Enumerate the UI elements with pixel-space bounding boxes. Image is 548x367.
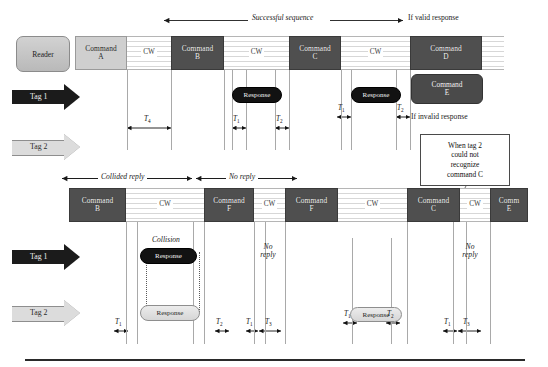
top-timing-t2a: T2 bbox=[276, 115, 283, 124]
bottom-timing-t3b-sub: 3 bbox=[467, 321, 470, 327]
guide-line bbox=[127, 70, 128, 150]
bottom-timing-t2a-sub: 2 bbox=[220, 321, 223, 327]
top-command-a: Command A bbox=[75, 36, 127, 70]
collision-dotted-right bbox=[199, 252, 200, 312]
tag1-arrow-bottom: Tag 1 bbox=[12, 244, 80, 270]
guide-line bbox=[352, 238, 353, 344]
top-timing-t1b: T1 bbox=[338, 104, 345, 113]
bottom-command-f1-line2: F bbox=[213, 205, 245, 213]
bottom-command-c-line2: C bbox=[418, 205, 450, 213]
top-command-a-line2: A bbox=[85, 53, 117, 61]
bottom-timing-t2b: T2 bbox=[387, 310, 394, 319]
bottom-response-tag2-commandf: Response bbox=[350, 307, 402, 322]
top-response-1: Response bbox=[232, 87, 282, 103]
top-command-c: Command C bbox=[289, 36, 341, 70]
bottom-cw-3: CW bbox=[338, 188, 407, 222]
top-timing-t2b: T2 bbox=[397, 104, 404, 113]
bottom-cw-2-label: CW bbox=[262, 201, 278, 208]
bottom-command-b-line2: B bbox=[82, 205, 114, 213]
bottom-cw-2: CW bbox=[254, 188, 285, 222]
top-timing-t2b-sub: 2 bbox=[401, 107, 404, 113]
bottom-command-f-1: Command F bbox=[204, 188, 254, 222]
callout-line3: recognize bbox=[447, 160, 483, 170]
label-successful-sequence: Successful sequence bbox=[252, 14, 313, 22]
callout-tag2-recognition: When tag 2 could not recognize command C bbox=[420, 134, 510, 186]
bottom-command-f-2: Command F bbox=[285, 188, 338, 222]
label-if-invalid-response: If invalid response bbox=[411, 113, 468, 121]
label-no-reply-2: No reply bbox=[458, 243, 482, 260]
top-command-e-line2: E bbox=[445, 89, 450, 97]
bottom-cw-1-label: CW bbox=[157, 201, 173, 208]
top-command-d: Command D bbox=[410, 36, 482, 70]
label-if-valid-response: If valid response bbox=[408, 14, 459, 22]
bottom-command-b: Command B bbox=[69, 188, 126, 222]
tag1-arrow-head bbox=[64, 244, 80, 270]
guide-line bbox=[171, 70, 172, 150]
bottom-timing-t3b: T3 bbox=[463, 318, 470, 327]
bottom-response-tag1-collision: Response bbox=[140, 248, 197, 264]
guide-line bbox=[126, 222, 127, 344]
top-command-e: Command E bbox=[411, 74, 483, 104]
label-no-reply-middle: No reply bbox=[226, 173, 258, 181]
callout-line1: When tag 2 bbox=[447, 141, 483, 151]
top-cw-4 bbox=[482, 36, 504, 70]
bottom-response-1-label: Response bbox=[155, 252, 182, 260]
tag2-arrow-top: Tag 2 bbox=[12, 134, 80, 160]
bottom-command-e: Comm E bbox=[490, 188, 528, 222]
guide-line bbox=[351, 70, 352, 150]
top-command-c-line2: C bbox=[299, 53, 331, 61]
bottom-timing-t1c: T1 bbox=[344, 310, 351, 319]
top-timing-t4: T4 bbox=[144, 115, 151, 124]
top-response-2: Response bbox=[351, 87, 401, 103]
tag2-arrow-bottom: Tag 2 bbox=[12, 300, 80, 326]
guide-line bbox=[254, 222, 255, 344]
label-collision: Collision bbox=[152, 236, 180, 244]
guide-line bbox=[137, 222, 138, 344]
guide-line bbox=[224, 70, 225, 150]
top-cw-1: CW bbox=[127, 36, 171, 70]
tag1-arrow-top: Tag 1 bbox=[12, 84, 80, 110]
bottom-timing-t1b: T1 bbox=[246, 318, 253, 327]
top-command-b: Command B bbox=[171, 36, 224, 70]
guide-line bbox=[490, 222, 491, 344]
guide-line bbox=[193, 222, 194, 344]
bottom-command-e-line2: E bbox=[499, 205, 520, 213]
top-timing-t1b-sub: 1 bbox=[342, 107, 345, 113]
bottom-timing-t1d: T1 bbox=[444, 318, 451, 327]
bottom-timing-t1a: T1 bbox=[115, 318, 122, 327]
bottom-timing-t2a: T2 bbox=[216, 318, 223, 327]
top-timing-t4-sub: 4 bbox=[148, 118, 151, 124]
top-cw-3: CW bbox=[341, 36, 410, 70]
top-cw-3-label: CW bbox=[368, 49, 384, 56]
bottom-command-f2-line2: F bbox=[296, 205, 328, 213]
guide-line bbox=[453, 222, 454, 344]
bottom-timing-t1c-sub: 1 bbox=[348, 313, 351, 319]
guide-line bbox=[391, 238, 392, 344]
top-cw-2: CW bbox=[224, 36, 289, 70]
label-no-reply-1-line2: reply bbox=[256, 251, 280, 259]
bottom-cw-4: CW bbox=[460, 188, 490, 222]
tag1-label-top: Tag 1 bbox=[30, 84, 47, 110]
guide-line bbox=[407, 222, 408, 344]
callout-line4: command C bbox=[447, 170, 483, 180]
callout-line2: could not bbox=[447, 150, 483, 160]
guide-line bbox=[246, 70, 247, 150]
bottom-cw-1: CW bbox=[126, 188, 204, 222]
bottom-response-3-label: Response bbox=[363, 311, 390, 319]
label-no-reply-2-line2: reply bbox=[458, 251, 482, 259]
guide-line bbox=[232, 70, 233, 150]
reader-label: Reader bbox=[32, 50, 54, 59]
top-timing-t1a-sub: 1 bbox=[237, 118, 240, 124]
bottom-timing-t3a: T3 bbox=[265, 318, 272, 327]
bottom-timing-t2b-sub: 2 bbox=[391, 313, 394, 319]
tag2-arrow-head bbox=[64, 134, 80, 160]
bottom-cw-4-label: CW bbox=[467, 201, 483, 208]
bottom-cw-3-label: CW bbox=[365, 201, 381, 208]
top-timing-t1a: T1 bbox=[233, 115, 240, 124]
top-response-2-label: Response bbox=[363, 91, 390, 99]
bottom-command-c: Command C bbox=[407, 188, 460, 222]
tag2-arrow-head bbox=[64, 300, 80, 326]
top-cw-2-label: CW bbox=[249, 49, 265, 56]
bottom-timing-t3a-sub: 3 bbox=[269, 321, 272, 327]
bottom-timing-t1b-sub: 1 bbox=[250, 321, 253, 327]
